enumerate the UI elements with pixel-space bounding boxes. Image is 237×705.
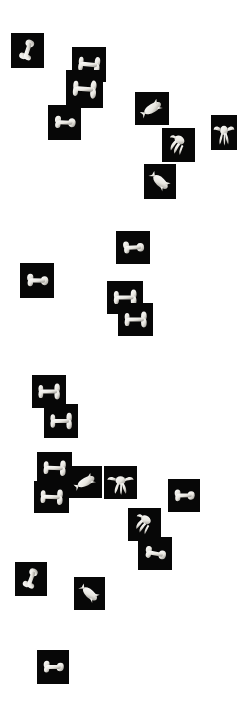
thumbnail-tile[interactable]: bone-femur (37, 650, 69, 684)
thumbnail-tile[interactable]: bone-long (34, 481, 69, 513)
thumbnail-tile[interactable]: bone-femur (11, 33, 44, 68)
thumbnail-tile[interactable]: bone-femur (116, 231, 150, 264)
thumbnail-tile[interactable]: hand-open (211, 115, 237, 150)
thumbnail-tile[interactable]: vertebra (144, 164, 176, 199)
thumbnail-tile[interactable]: vertebra (74, 577, 105, 610)
thumbnail-tile[interactable]: bone-femur (20, 263, 54, 298)
thumbnail-tile[interactable]: bone-long (37, 452, 72, 484)
thumbnail-tile[interactable]: bone-long (118, 303, 153, 336)
thumbnail-tile[interactable]: bone-femur (138, 537, 172, 570)
thumbnail-tile[interactable]: vertebra (135, 92, 169, 125)
thumbnail-tile[interactable]: hand-open (104, 466, 137, 499)
thumbnail-tile[interactable]: bone-femur (15, 562, 47, 596)
thumbnail-tile[interactable]: bone-long (66, 70, 103, 108)
thumbnail-tile[interactable]: vertebra (69, 466, 102, 498)
thumbnail-tile[interactable]: bone-femur (48, 105, 81, 140)
thumbnail-tile[interactable]: hand-bones (162, 128, 195, 162)
thumbnail-tile[interactable]: bone-femur (168, 479, 200, 512)
scatter-plot-canvas: bone-femurbone-longbone-longbone-femurve… (0, 0, 237, 705)
thumbnail-tile[interactable]: bone-long (44, 404, 78, 438)
